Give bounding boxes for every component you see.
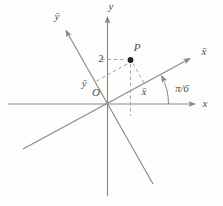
angle-pi-over-6-label: π/6: [175, 84, 188, 95]
dashed-p-to-xbar-axis: [133, 64, 145, 85]
origin-label: O: [92, 87, 100, 98]
xbar-coordinate-label: x̄: [142, 87, 147, 98]
rotation-of-axes-figure: y x x̄ ȳ O P 2 x̄ ȳ π/6: [0, 0, 223, 206]
x-axis-label: x: [203, 98, 208, 109]
xbar-axis-label: x̄: [202, 46, 207, 57]
angle-arc: [162, 76, 169, 104]
ybar-axis: [66, 31, 153, 185]
figure-canvas: [0, 0, 223, 206]
point-p-label: P: [134, 42, 141, 53]
point-p-dot: [128, 57, 134, 63]
ybar-axis-label: ȳ: [55, 11, 60, 22]
y-tick-2-label: 2: [98, 53, 104, 64]
dashed-p-to-ybar-axis: [94, 64, 127, 83]
ybar-coordinate-label: ȳ: [82, 79, 87, 90]
y-axis-label: y: [109, 1, 114, 12]
